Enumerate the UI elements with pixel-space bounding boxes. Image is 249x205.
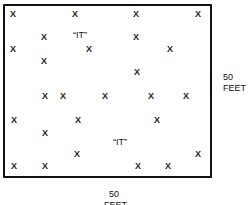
x-mark: X <box>75 116 81 125</box>
it-label: “IT” <box>73 31 87 40</box>
x-mark: X <box>154 116 160 125</box>
x-mark: X <box>135 162 141 171</box>
x-mark: X <box>102 92 108 101</box>
x-mark: X <box>86 45 92 54</box>
x-mark: X <box>183 92 189 101</box>
x-mark: X <box>60 92 66 101</box>
x-mark: X <box>42 129 48 138</box>
x-mark: X <box>167 45 173 54</box>
it-label: “IT” <box>113 138 127 147</box>
x-mark: X <box>148 92 154 101</box>
x-mark: X <box>195 150 201 159</box>
x-mark: X <box>41 33 47 42</box>
x-mark: X <box>10 45 16 54</box>
x-mark: X <box>134 68 140 77</box>
x-mark: X <box>42 92 48 101</box>
x-mark: X <box>133 33 139 42</box>
x-mark: X <box>41 57 47 66</box>
right-dimension-label: 50 FEET <box>223 72 246 94</box>
x-mark: X <box>11 162 17 171</box>
right-dimension-value: 50 <box>223 72 246 83</box>
right-dimension-unit: FEET <box>223 83 246 94</box>
bottom-dimension-unit: FEET <box>104 200 124 205</box>
x-mark: X <box>42 162 48 171</box>
x-mark: X <box>74 150 80 159</box>
x-mark: X <box>133 10 139 19</box>
x-mark: X <box>10 10 16 19</box>
bottom-dimension-value: 50 <box>104 189 124 200</box>
bottom-dimension-label: 50 FEET <box>104 189 124 205</box>
x-mark: X <box>11 116 17 125</box>
x-mark: X <box>72 10 78 19</box>
x-mark: X <box>195 10 201 19</box>
x-mark: X <box>165 162 171 171</box>
